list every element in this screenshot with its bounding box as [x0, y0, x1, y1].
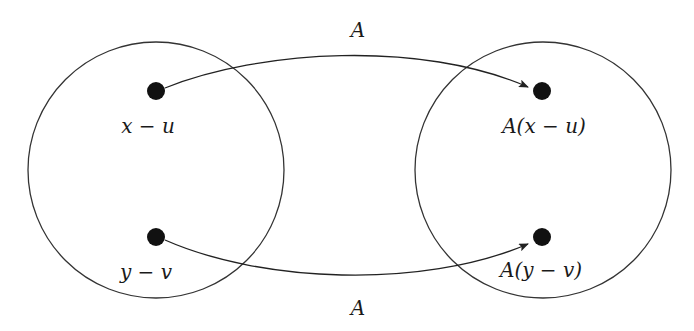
label-x-minus-u: x − u [121, 114, 175, 138]
point-y-minus-v [147, 228, 165, 246]
label-arrow-bottom-A: A [351, 296, 365, 320]
point-A-x-minus-u [533, 82, 551, 100]
mapping-diagram [0, 0, 694, 331]
label-A-x-minus-u: A(x − u) [502, 114, 586, 138]
arrow-bottom [165, 240, 528, 275]
label-A-y-minus-v: A(y − v) [500, 258, 582, 282]
point-x-minus-u [147, 82, 165, 100]
label-arrow-top-A: A [351, 18, 365, 42]
arrow-top [165, 55, 528, 88]
point-A-y-minus-v [533, 228, 551, 246]
label-y-minus-v: y − v [120, 260, 172, 284]
